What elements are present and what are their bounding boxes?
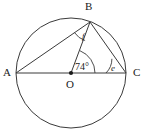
segment-chord-BC [90,22,126,73]
centre-point-dot [69,71,73,75]
vertex-label-a: A [3,67,11,78]
geometry-figure: A B C O 74° f e [0,0,150,139]
vertex-label-o: O [66,79,74,90]
angle-label-at-b: f [82,32,85,41]
vertex-label-b: B [85,1,92,12]
angle-label-at-c: e [111,64,115,73]
vertex-label-c: C [133,67,140,78]
angle-label-centre: 74° [75,62,89,72]
